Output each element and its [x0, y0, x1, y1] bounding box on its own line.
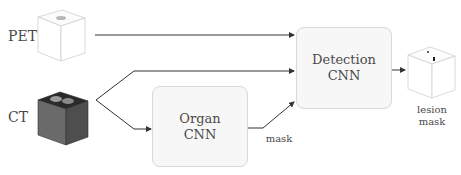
mask-edge-label: mask: [264, 133, 294, 145]
detection-cnn-block: Detection CNN: [296, 27, 392, 109]
detection-cnn-line2: CNN: [312, 68, 376, 84]
organ-cnn-block: Organ CNN: [152, 86, 248, 167]
lesion-mask-label: lesion mask: [412, 104, 452, 128]
edge-organ-mask-to-detection: [247, 102, 294, 128]
lesion-mask-line2: mask: [412, 116, 452, 128]
organ-cnn-line2: CNN: [179, 127, 220, 143]
ct-volume-icon: [38, 92, 88, 145]
detection-cnn-line1: Detection: [312, 52, 376, 68]
ct-label: CT: [8, 110, 28, 124]
lesion-mask-line1: lesion: [412, 104, 452, 116]
pet-label: PET: [8, 29, 37, 43]
pet-volume-icon: [38, 10, 85, 61]
organ-cnn-line1: Organ: [179, 111, 220, 127]
lesion-mask-volume-icon: [408, 47, 455, 98]
edge-ct-to-organ: [96, 100, 151, 129]
